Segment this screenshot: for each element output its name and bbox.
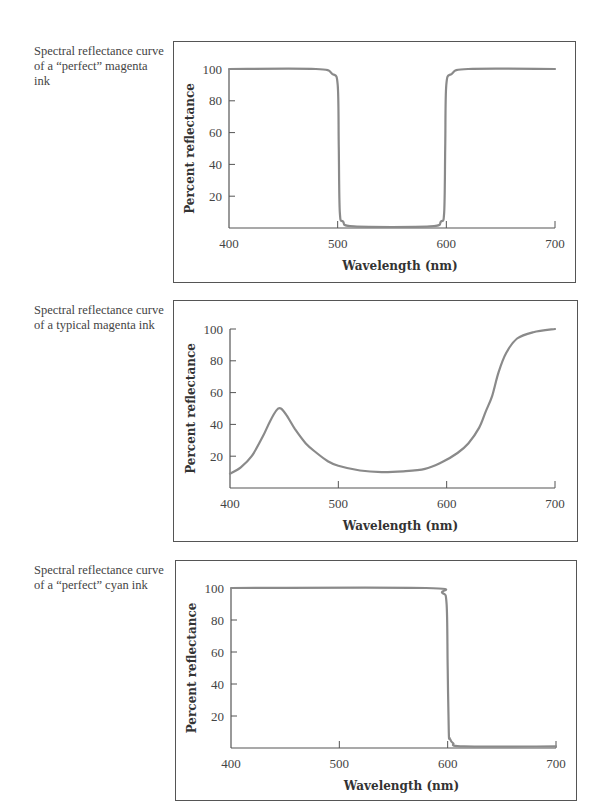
y-tick-label: 80 [210,353,223,368]
x-tick-label: 700 [546,756,566,771]
x-tick-label: 500 [329,496,349,511]
y-tick-label: 60 [210,385,223,400]
chart-svg: 20406080100400500600700Wavelength (nm)Pe… [174,301,579,543]
y-tick-label: 100 [203,62,223,77]
y-tick-label: 100 [204,322,224,337]
y-axis-title: Percent reflectance [184,343,198,474]
y-tick-label: 60 [211,645,224,660]
y-tick-label: 20 [209,189,222,204]
y-tick-label: 20 [210,449,223,464]
x-tick-label: 700 [545,236,565,251]
x-axis-title: Wavelength (nm) [342,519,458,533]
x-tick-label: 700 [545,496,565,511]
caption-typical-magenta: Spectral reflectance curve of a typical … [34,303,164,333]
y-tick-label: 80 [209,93,222,108]
y-tick-label: 100 [205,581,225,596]
x-axis-title: Wavelength (nm) [343,779,459,793]
x-tick-label: 400 [219,236,239,251]
y-tick-label: 40 [211,677,224,692]
x-tick-label: 400 [220,496,240,511]
x-tick-label: 400 [221,756,241,771]
chart-perfect-magenta: 20406080100400500600700Wavelength (nm)Pe… [173,41,576,283]
y-tick-label: 40 [210,417,223,432]
reflectance-curve [230,329,555,474]
chart-svg: 20406080100400500600700Wavelength (nm)Pe… [176,561,578,802]
reflectance-curve [229,69,555,227]
x-tick-label: 500 [330,756,350,771]
y-tick-label: 40 [209,157,222,172]
chart-svg: 20406080100400500600700Wavelength (nm)Pe… [174,42,577,284]
y-axis-title: Percent reflectance [185,602,199,733]
x-tick-label: 500 [328,236,348,251]
reflectance-curve [231,588,556,747]
x-tick-label: 600 [437,236,457,251]
y-tick-label: 60 [209,125,222,140]
y-tick-label: 20 [211,709,224,724]
caption-perfect-magenta: Spectral reflectance curve of a “perfect… [34,44,164,89]
y-axis-title: Percent reflectance [183,83,197,214]
caption-perfect-cyan: Spectral reflectance curve of a “perfect… [34,563,164,593]
x-tick-label: 600 [437,496,457,511]
chart-perfect-cyan: 20406080100400500600700Wavelength (nm)Pe… [175,560,577,801]
x-tick-label: 600 [438,756,458,771]
x-axis-title: Wavelength (nm) [341,259,457,273]
chart-typical-magenta: 20406080100400500600700Wavelength (nm)Pe… [173,300,578,542]
y-tick-label: 80 [211,613,224,628]
